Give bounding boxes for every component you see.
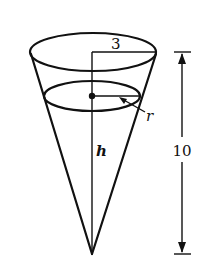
water-center-dot bbox=[89, 93, 95, 99]
water-radius-label: r bbox=[146, 107, 154, 125]
dimension-arrow-down-icon bbox=[178, 242, 186, 253]
water-height-label: h bbox=[96, 142, 107, 160]
top-radius-label: 3 bbox=[111, 35, 121, 53]
r-pointer-arrowhead bbox=[119, 97, 127, 104]
dimension-arrow-up-icon bbox=[178, 53, 186, 64]
cone-diagram: 3 r h 10 bbox=[0, 0, 204, 275]
total-height-label: 10 bbox=[172, 142, 191, 160]
